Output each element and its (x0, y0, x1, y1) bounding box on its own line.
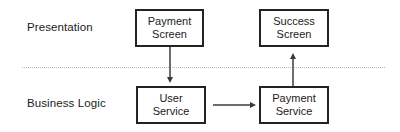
edge-line (292, 59, 294, 86)
node-payment-screen-line1: Payment (148, 15, 191, 28)
node-success-screen-line1: Success (273, 15, 315, 28)
edge-line (213, 104, 251, 106)
node-payment-screen[interactable]: Payment Screen (135, 9, 204, 47)
node-payment-screen-line2: Screen (152, 28, 187, 41)
lane-divider (22, 67, 385, 68)
arrow-right-icon (250, 102, 256, 108)
node-payment-service-line1: Payment (272, 92, 315, 105)
lane-label-business-logic: Business Logic (27, 98, 106, 110)
node-success-screen[interactable]: Success Screen (259, 9, 329, 47)
architecture-diagram: Presentation Business Logic Payment Scre… (0, 0, 400, 132)
node-payment-service[interactable]: Payment Service (259, 86, 329, 124)
node-user-service-line2: Service (153, 105, 190, 118)
node-success-screen-line2: Screen (277, 28, 312, 41)
node-user-service-line1: User (159, 92, 182, 105)
lane-label-presentation: Presentation (27, 22, 93, 34)
edge-line (169, 47, 171, 79)
arrow-down-icon (167, 77, 173, 83)
node-payment-service-line2: Service (276, 105, 313, 118)
arrow-up-icon (290, 53, 296, 59)
node-user-service[interactable]: User Service (136, 86, 206, 124)
